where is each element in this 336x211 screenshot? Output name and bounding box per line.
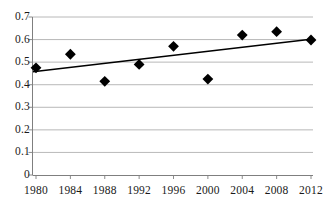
x-axis-tick-label: 1980 — [24, 185, 48, 197]
x-axis-tick-label: 2012 — [299, 185, 323, 197]
x-axis-tick-label: 1988 — [93, 185, 117, 197]
scatter-chart: 00.10.20.30.40.50.60.7 19801984198819921… — [0, 0, 336, 211]
x-axis-labels: 198019841988199219962000200420082012 — [0, 0, 336, 211]
x-axis-tick-label: 2004 — [230, 185, 254, 197]
x-axis-tick-label: 2000 — [196, 185, 220, 197]
x-axis-tick-label: 1984 — [58, 185, 82, 197]
x-axis-tick-label: 1996 — [162, 185, 186, 197]
x-axis-tick-label: 2008 — [265, 185, 289, 197]
x-axis-tick-label: 1992 — [127, 185, 151, 197]
